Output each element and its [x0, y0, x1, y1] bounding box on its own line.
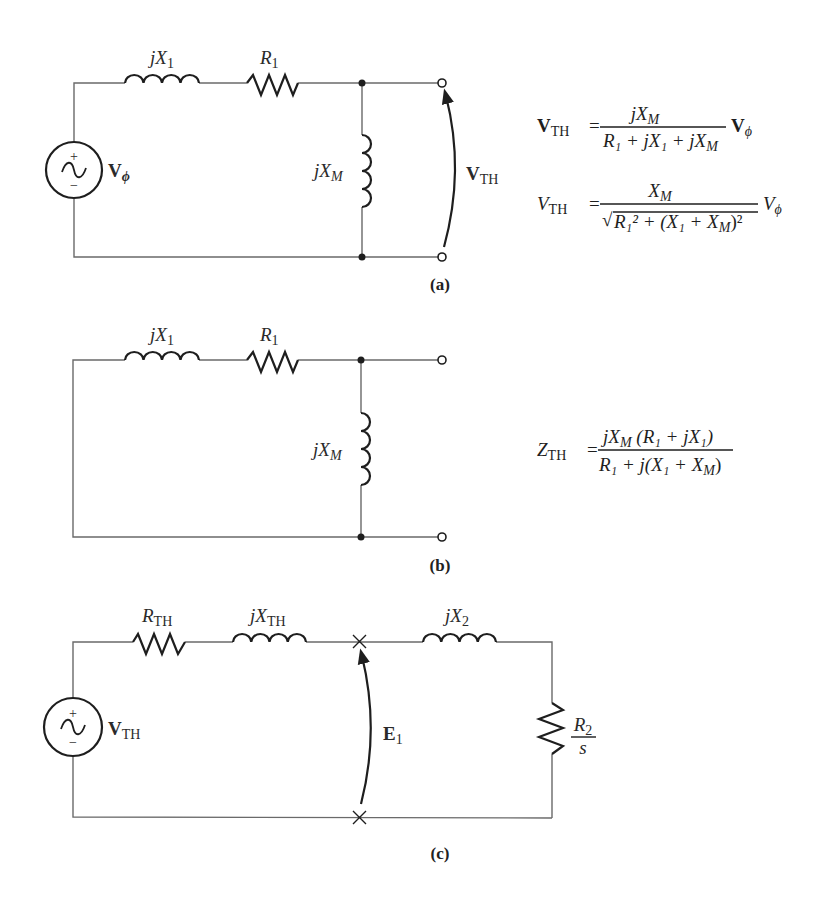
wire-c-bottom — [73, 756, 552, 818]
wire-a-top-left — [74, 83, 125, 142]
label-e1: E1 — [383, 723, 403, 747]
caption-c: (c) — [431, 844, 450, 863]
resistor-load-icon — [539, 703, 563, 754]
label-r1: R1 — [259, 324, 279, 348]
eq2-denominator: R₁² + (X₁ + XM)² — [613, 211, 743, 235]
label-rth: RTH — [141, 605, 172, 629]
label-v-phi: Vϕ — [108, 160, 130, 184]
wire-a-bottom — [74, 199, 438, 257]
circuit-panel-c: + − VTH RTH jXTH E1 jX2 R2 s (c) — [44, 605, 596, 863]
eq3-equals: = — [587, 439, 598, 460]
resistor-r1-icon — [247, 75, 298, 95]
label-r1: R1 — [259, 47, 279, 71]
load-numerator: R2 — [573, 714, 593, 738]
terminal-open — [438, 253, 446, 261]
inductor-jxm-icon — [361, 413, 370, 485]
eq3-denominator: R₁ + j(X₁ + XM) — [598, 454, 721, 478]
wire-b-outer — [73, 360, 438, 537]
eq3-numerator: jXM (R₁ + jX₁) — [600, 426, 713, 450]
source-minus-sign: − — [70, 178, 78, 193]
node-dot — [358, 357, 365, 364]
source-plus-sign: + — [69, 706, 77, 721]
resistor-r1-icon — [247, 352, 298, 372]
resistor-rth-icon — [133, 634, 185, 654]
label-jx1: jX1 — [147, 324, 174, 348]
eq2-equals: = — [589, 193, 600, 214]
circuit-panel-a: + − Vϕ jX1 R1 jXM VTH (a) — [46, 47, 498, 294]
inductor-jxm-icon — [362, 135, 371, 207]
label-vth-source: VTH — [108, 718, 140, 742]
source-plus-sign: + — [70, 149, 78, 164]
wire-c-left-top — [73, 642, 133, 698]
inductor-jxth-icon — [233, 634, 306, 642]
source-minus-sign: − — [69, 735, 77, 750]
eq2-lhs: VTH — [537, 193, 567, 217]
eq2-sqrt-icon: √ — [602, 209, 613, 230]
inductor-jx2-icon — [423, 634, 496, 642]
node-dot — [359, 80, 366, 87]
terminal-open — [438, 533, 446, 541]
equation-vth-phasor: VTH = jXM R₁ + jX₁ + jXM Vϕ — [537, 103, 752, 154]
label-r2-over-s: R2 s — [571, 714, 596, 758]
ac-source-icon: + − — [44, 698, 102, 756]
label-vth: VTH — [466, 163, 498, 187]
node-dot — [358, 534, 365, 541]
inductor-jx1-icon — [125, 75, 199, 83]
caption-a: (a) — [430, 275, 450, 294]
load-denominator: s — [579, 737, 586, 758]
label-jx2: jX2 — [442, 605, 469, 629]
equation-zth: ZTH = jXM (R₁ + jX₁) R₁ + j(X₁ + XM) — [537, 426, 733, 478]
label-jxm: jXM — [310, 439, 343, 463]
eq1-equals: = — [589, 115, 600, 136]
eq2-numerator: XM — [647, 180, 673, 204]
voltage-arrow-icon — [444, 96, 455, 247]
wire-c-right — [496, 642, 552, 818]
eq3-lhs: ZTH — [537, 439, 566, 463]
figure-canvas: + − Vϕ jX1 R1 jXM VTH (a) VTH = jXM R₁ +… — [0, 0, 820, 900]
terminal-open — [438, 79, 446, 87]
eq1-lhs: VTH — [537, 115, 569, 139]
label-jxth: jXTH — [247, 605, 286, 629]
emf-arrow-icon — [361, 656, 371, 804]
eq1-numerator: jXM — [628, 103, 661, 127]
label-jx1: jX1 — [147, 47, 174, 71]
circuit-panel-b: jX1 R1 jXM (b) — [73, 324, 450, 575]
caption-b: (b) — [430, 556, 451, 575]
ac-source-icon: + − — [46, 142, 102, 198]
terminal-open — [438, 356, 446, 364]
node-dot — [359, 254, 366, 261]
eq2-factor: Vϕ — [763, 193, 782, 217]
eq1-denominator: R₁ + jX₁ + jXM — [602, 130, 719, 154]
inductor-jx1-icon — [125, 352, 199, 360]
eq1-factor: Vϕ — [731, 115, 752, 139]
equation-vth-magnitude: VTH = XM √ R₁² + (X₁ + XM)² Vϕ — [537, 180, 782, 235]
label-jxm: jXM — [311, 160, 344, 184]
